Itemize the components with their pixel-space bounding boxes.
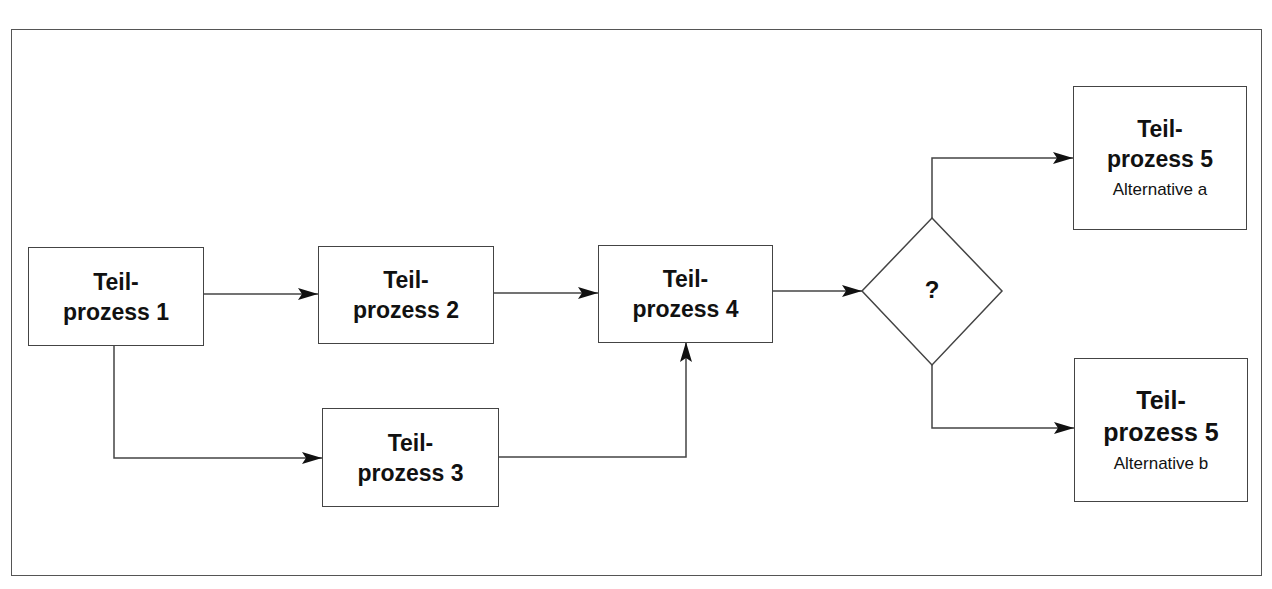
- process-title-line1: Teil-: [383, 265, 429, 295]
- process-box-5a: Teil- prozess 5 Alternative a: [1073, 86, 1247, 230]
- edge-decision-p5a: [932, 158, 1073, 218]
- edge-p3-p4: [498, 342, 686, 457]
- process-title-line1: Teil-: [388, 428, 434, 458]
- process-title-line2: prozess 5: [1107, 144, 1213, 174]
- process-title-line2: prozess 1: [63, 297, 169, 327]
- process-title-line1: Teil-: [663, 264, 709, 294]
- process-title-line1: Teil-: [93, 267, 139, 297]
- edge-decision-p5b: [932, 365, 1074, 428]
- process-box-2: Teil- prozess 2: [318, 246, 494, 344]
- process-title-line2: prozess 5: [1103, 416, 1218, 448]
- process-box-5b: Teil- prozess 5 Alternative b: [1074, 358, 1248, 502]
- process-title-line2: prozess 2: [353, 295, 459, 325]
- process-title-line2: prozess 3: [357, 458, 463, 488]
- process-alternative-label: Alternative b: [1114, 452, 1209, 476]
- process-title-line2: prozess 4: [632, 294, 738, 324]
- edge-p1-p3: [114, 345, 322, 458]
- process-box-1: Teil- prozess 1: [28, 247, 204, 346]
- decision-label: ?: [918, 276, 946, 304]
- process-box-3: Teil- prozess 3: [322, 408, 499, 507]
- process-title-line1: Teil-: [1137, 114, 1183, 144]
- process-box-4: Teil- prozess 4: [598, 245, 773, 343]
- process-title-line1: Teil-: [1136, 384, 1186, 416]
- process-alternative-label: Alternative a: [1113, 178, 1208, 202]
